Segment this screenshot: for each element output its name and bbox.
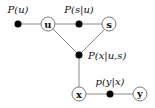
variable-label-y: y (136, 88, 144, 99)
factor-graph: u s x y P(u) P(s|u) P(x|u,s) p(y|x) (0, 0, 155, 108)
factor-label-pyx: p(y|x) (96, 76, 125, 88)
variable-label-s: s (106, 19, 112, 30)
variable-label-u: u (44, 19, 51, 30)
variable-label-x: x (76, 89, 83, 100)
factor-label-pu: P(u) (7, 4, 29, 15)
factor-node-pu (15, 21, 22, 28)
edge-u-pxus (53, 29, 79, 55)
factor-node-psu (76, 21, 83, 28)
factor-node-pxus (76, 52, 83, 59)
factor-node-pyx (107, 91, 114, 98)
factor-label-psu: P(s|u) (63, 4, 94, 16)
factor-label-pxus: P(x|u,s) (87, 50, 126, 62)
